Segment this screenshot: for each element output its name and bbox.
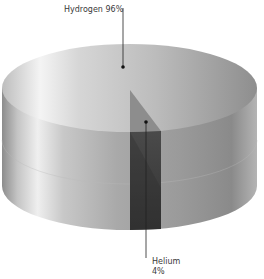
helium-label-name: Helium bbox=[152, 257, 180, 267]
hydrogen-top bbox=[2, 44, 257, 132]
helium-marker-dot bbox=[144, 120, 148, 124]
cylinder-pie-chart bbox=[0, 0, 264, 279]
hydrogen-marker-dot bbox=[121, 65, 125, 69]
helium-label-value: 4% bbox=[152, 267, 180, 277]
hydrogen-label: Hydrogen 96% bbox=[64, 5, 123, 15]
helium-label: Helium 4% bbox=[152, 257, 180, 277]
